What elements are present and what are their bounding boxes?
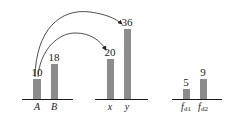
category-label-b: B	[44, 102, 64, 112]
fd1-sub: d1	[184, 105, 191, 113]
baseline-group-1	[22, 99, 73, 100]
bar-b	[51, 64, 58, 99]
category-label-y: y	[117, 102, 137, 112]
value-label-b: 18	[44, 52, 64, 63]
value-label-x: 20	[100, 47, 120, 58]
bar-fd1	[183, 89, 190, 99]
category-label-fd2: fd2	[193, 102, 213, 114]
bar-fd2	[200, 79, 207, 99]
bar-diagram: 10 A 18 B 20 x 36 y 5 fd1 9 fd2	[0, 0, 238, 121]
value-label-fd2: 9	[193, 67, 213, 78]
baseline-group-3	[172, 99, 222, 100]
baseline-group-2	[95, 99, 148, 100]
value-label-y: 36	[117, 17, 137, 28]
bar-x	[107, 59, 114, 99]
fd2-sub: d2	[201, 105, 208, 113]
bar-a	[33, 79, 41, 99]
value-label-a: 10	[27, 67, 47, 78]
bar-y	[124, 29, 131, 99]
value-label-fd1: 5	[176, 77, 196, 88]
